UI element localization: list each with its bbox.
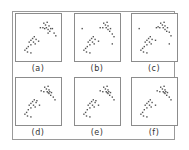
data-point (110, 28, 111, 29)
data-point (102, 27, 103, 28)
data-point (145, 41, 146, 42)
data-point (83, 114, 84, 115)
data-point (26, 112, 27, 113)
data-point (166, 95, 167, 96)
scatter-plot (132, 14, 179, 63)
panel-label: (c) (131, 64, 177, 73)
data-point (169, 32, 170, 33)
data-point (100, 27, 101, 28)
scatter-plot (16, 14, 63, 63)
data-point (52, 28, 53, 29)
data-point (106, 86, 107, 87)
data-point (30, 103, 31, 104)
data-point (87, 109, 88, 110)
data-point (30, 116, 31, 117)
data-point (151, 106, 152, 107)
data-point (47, 22, 48, 23)
scatter-panel (74, 77, 121, 126)
data-point (35, 39, 36, 40)
data-point (33, 105, 34, 106)
data-point (93, 99, 94, 100)
data-point (105, 24, 106, 25)
data-point (164, 29, 165, 30)
data-point (89, 116, 90, 117)
panel-label: (a) (15, 64, 61, 73)
data-point (164, 89, 165, 90)
scatter-panel (131, 13, 178, 62)
data-point (46, 27, 47, 28)
data-point (163, 86, 164, 87)
data-point (151, 43, 152, 44)
data-point (146, 107, 147, 108)
data-point (33, 41, 34, 42)
data-point (100, 90, 101, 91)
data-point (146, 40, 147, 41)
scatter-panel (15, 13, 62, 62)
data-point (41, 90, 42, 91)
data-point (93, 36, 94, 37)
data-point (47, 92, 48, 93)
data-point (89, 107, 90, 108)
data-point (145, 105, 146, 106)
data-point (43, 91, 44, 92)
data-point (85, 48, 86, 49)
scatter-panel (15, 77, 62, 126)
data-point (94, 43, 95, 44)
data-point (102, 91, 103, 92)
data-point (112, 96, 113, 97)
data-point (32, 38, 33, 39)
data-point (163, 27, 164, 28)
data-point (34, 99, 35, 100)
data-point (83, 50, 84, 51)
data-point (140, 50, 141, 51)
data-point (44, 87, 45, 88)
data-point (47, 29, 48, 30)
data-point (162, 24, 163, 25)
data-point (94, 106, 95, 107)
data-point (106, 92, 107, 93)
data-point (163, 22, 164, 23)
scatter-plot (132, 78, 179, 127)
data-point (85, 112, 86, 113)
panel-label: (d) (15, 128, 61, 137)
data-point (160, 23, 161, 24)
data-point (27, 115, 28, 116)
data-point (151, 102, 152, 103)
data-point (151, 39, 152, 40)
data-point (162, 88, 163, 89)
data-point (103, 87, 104, 88)
data-point (32, 101, 33, 102)
data-point (140, 114, 141, 115)
data-point (155, 105, 156, 106)
data-point (34, 36, 35, 37)
data-point (24, 114, 25, 115)
data-point (89, 44, 90, 45)
data-point (159, 27, 160, 28)
data-point (28, 46, 29, 47)
data-point (82, 28, 83, 29)
panel-label: (f) (131, 128, 177, 137)
data-point (156, 27, 157, 28)
data-point (50, 28, 51, 29)
data-point (43, 23, 44, 24)
data-point (142, 112, 143, 113)
data-point (163, 92, 164, 93)
data-point (49, 31, 50, 32)
scatter-plot (16, 78, 63, 127)
data-point (30, 52, 31, 53)
data-point (91, 38, 92, 39)
data-point (108, 91, 109, 92)
data-point (113, 99, 114, 100)
data-point (143, 115, 144, 116)
data-point (27, 51, 28, 52)
data-point (91, 101, 92, 102)
data-point (109, 31, 110, 32)
data-point (160, 87, 161, 88)
data-point (51, 92, 52, 93)
data-point (98, 41, 99, 42)
data-point (107, 25, 108, 26)
data-point (55, 35, 56, 36)
data-point (94, 102, 95, 103)
data-point (106, 22, 107, 23)
data-point (26, 48, 27, 49)
